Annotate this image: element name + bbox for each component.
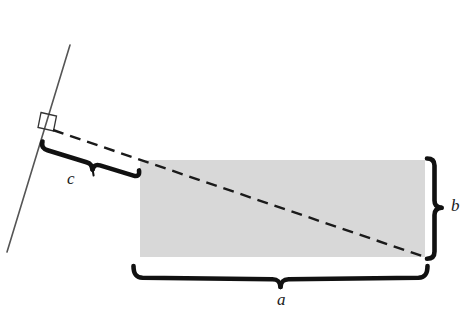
brace-b xyxy=(427,159,442,259)
label-b: b xyxy=(451,197,460,214)
label-c: c xyxy=(67,170,75,187)
brace-c-tip xyxy=(93,169,94,176)
slant-line xyxy=(7,45,70,252)
brace-a xyxy=(134,266,428,287)
label-a: a xyxy=(277,291,286,308)
brace-c xyxy=(42,142,139,177)
diagram-canvas xyxy=(0,0,470,322)
geometry-diagram: a b c xyxy=(0,0,470,322)
